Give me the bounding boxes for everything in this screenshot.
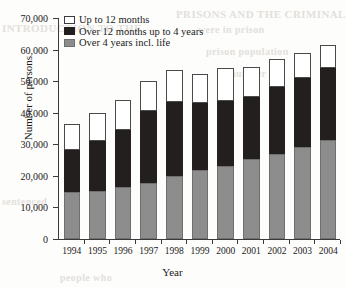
x-axis-tick-label-1997: 1997 (139, 246, 158, 256)
x-axis-line (58, 239, 340, 240)
segment-over-12-months-up-to-4-years (192, 103, 209, 170)
x-axis-tick-label-1996: 1996 (114, 246, 133, 256)
y-axis-tick (53, 144, 58, 145)
bar-2002 (269, 59, 286, 239)
segment-up-to-12-months (89, 113, 106, 141)
segment-up-to-12-months (269, 59, 286, 87)
bar-2004 (320, 45, 337, 239)
legend-label: Over 12 months up to 4 years (79, 26, 203, 38)
segment-over-4-years-incl-life (217, 166, 234, 239)
x-axis-tick-label-2004: 2004 (319, 246, 338, 256)
x-axis-tick (84, 240, 85, 244)
segment-over-4-years-incl-life (243, 159, 260, 239)
chart-legend: Up to 12 monthsOver 12 months up to 4 ye… (64, 14, 203, 49)
x-axis-tick (109, 240, 110, 244)
segment-over-4-years-incl-life (320, 140, 337, 239)
segment-over-12-months-up-to-4-years (140, 111, 157, 183)
segment-over-4-years-incl-life (294, 147, 311, 239)
segment-over-12-months-up-to-4-years (320, 68, 337, 140)
y-axis-line (58, 18, 59, 240)
y-axis-tick-label: 40,000 (21, 107, 49, 118)
segment-up-to-12-months (140, 81, 157, 111)
segment-up-to-12-months (64, 124, 81, 150)
bar-1999 (192, 74, 209, 239)
segment-up-to-12-months (115, 100, 132, 130)
bar-2003 (294, 53, 311, 239)
bar-2000 (217, 68, 234, 239)
segment-over-4-years-incl-life (115, 187, 132, 239)
y-axis-tick (53, 176, 58, 177)
bar-1995 (89, 113, 106, 239)
segment-over-12-months-up-to-4-years (217, 101, 234, 166)
x-axis-tick (263, 240, 264, 244)
segment-over-12-months-up-to-4-years (166, 102, 183, 175)
legend-swatch-black (64, 27, 75, 35)
segment-up-to-12-months (294, 53, 311, 78)
segment-over-12-months-up-to-4-years (243, 97, 260, 160)
segment-over-12-months-up-to-4-years (115, 130, 132, 186)
y-axis-tick-label: 50,000 (21, 76, 49, 87)
segment-over-4-years-incl-life (89, 191, 106, 239)
y-axis-tick-label: 0 (43, 234, 48, 245)
legend-item-2: Over 4 years incl. life (64, 37, 203, 49)
x-axis-tick (314, 240, 315, 244)
legend-label: Up to 12 months (79, 14, 149, 26)
segment-over-4-years-incl-life (64, 192, 81, 239)
x-axis-tick (237, 240, 238, 244)
x-axis-tick-label-1994: 1994 (62, 246, 81, 256)
bar-1998 (166, 70, 183, 239)
x-axis-tick-label-2003: 2003 (293, 246, 312, 256)
segment-up-to-12-months (217, 68, 234, 101)
segment-up-to-12-months (192, 74, 209, 103)
x-axis-tick-label-2001: 2001 (242, 246, 261, 256)
segment-over-12-months-up-to-4-years (269, 87, 286, 153)
legend-swatch-gray (64, 39, 75, 47)
legend-item-0: Up to 12 months (64, 14, 203, 26)
y-axis-tick (53, 207, 58, 208)
bar-1994 (64, 124, 81, 239)
x-axis-tick-label-1998: 1998 (165, 246, 184, 256)
x-axis-tick-label-2000: 2000 (216, 246, 235, 256)
x-axis-tick (289, 240, 290, 244)
x-axis-tick (340, 240, 341, 244)
y-axis-tick (53, 113, 58, 114)
y-axis-tick-label: 20,000 (21, 170, 49, 181)
segment-up-to-12-months (243, 67, 260, 97)
x-axis-tick-label-1999: 1999 (191, 246, 210, 256)
y-axis-tick-label: 30,000 (21, 139, 49, 150)
y-axis-tick-label: 60,000 (21, 44, 49, 55)
y-axis-tick (53, 239, 58, 240)
y-axis-tick (53, 50, 58, 51)
bar-2001 (243, 67, 260, 239)
x-axis-tick-label-1995: 1995 (88, 246, 107, 256)
y-axis-tick-label: 70,000 (21, 13, 49, 24)
plot-area: 010,00020,00030,00040,00050,00060,00070,… (58, 18, 340, 240)
x-axis-tick (135, 240, 136, 244)
segment-over-4-years-incl-life (192, 170, 209, 239)
x-axis-tick (161, 240, 162, 244)
x-axis-tick (186, 240, 187, 244)
segment-over-12-months-up-to-4-years (64, 150, 81, 192)
x-axis-title: Year (0, 266, 345, 278)
legend-swatch-white (64, 16, 75, 24)
legend-label: Over 4 years incl. life (79, 37, 170, 49)
y-axis-tick-label: 10,000 (21, 202, 49, 213)
bar-1996 (115, 100, 132, 239)
segment-over-12-months-up-to-4-years (294, 78, 311, 147)
x-axis-tick (212, 240, 213, 244)
segment-over-12-months-up-to-4-years (89, 141, 106, 192)
segment-over-4-years-incl-life (140, 183, 157, 239)
y-axis-tick (53, 18, 58, 19)
bar-1997 (140, 81, 157, 239)
y-axis-tick (53, 81, 58, 82)
segment-over-4-years-incl-life (269, 154, 286, 239)
segment-up-to-12-months (320, 45, 337, 68)
legend-item-1: Over 12 months up to 4 years (64, 26, 203, 38)
segment-up-to-12-months (166, 70, 183, 102)
x-axis-tick-label-2002: 2002 (267, 246, 286, 256)
segment-over-4-years-incl-life (166, 176, 183, 239)
